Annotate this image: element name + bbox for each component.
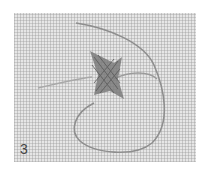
step-number-label: 3 — [20, 142, 28, 156]
embroidery-photo: 3 — [14, 13, 196, 162]
needle-thread-tail — [38, 77, 92, 88]
stitch-illustration — [14, 13, 196, 162]
thread-loop — [114, 73, 157, 79]
stitched-motif — [90, 51, 124, 99]
